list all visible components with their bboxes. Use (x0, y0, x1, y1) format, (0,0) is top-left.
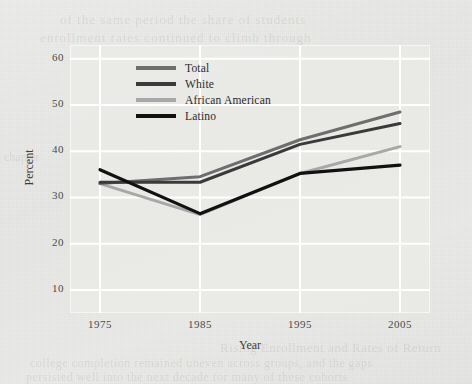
y-tick-label: 40 (34, 143, 64, 155)
x-axis-tick-labels: 1975198519952005 (70, 318, 430, 336)
legend-item[interactable]: Latino (136, 108, 286, 124)
legend-item-label: African American (185, 94, 271, 106)
x-tick-label: 1985 (188, 318, 212, 330)
x-axis-title: Year (70, 338, 430, 353)
ghost-text-line: enrollment rates continued to climb thro… (40, 30, 312, 46)
legend-swatch-icon (136, 82, 176, 86)
legend-item-label: Total (185, 62, 209, 74)
legend-item[interactable]: Total (136, 60, 286, 76)
y-axis-title: Percent (22, 133, 37, 203)
series-line (100, 124, 400, 183)
legend-swatch-icon (136, 98, 176, 102)
ghost-text-line: college completion remained uneven acros… (30, 356, 373, 371)
ghost-text-line: of the same period the share of students (60, 12, 306, 28)
page-root: of the same period the share of students… (0, 0, 472, 384)
series-line (100, 165, 400, 214)
legend-item[interactable]: White (136, 76, 286, 92)
x-tick-label: 2005 (388, 318, 412, 330)
y-tick-label: 60 (34, 51, 64, 63)
x-tick-label: 1995 (288, 318, 312, 330)
ghost-text-line: persisted well into the next decade for … (26, 370, 348, 384)
legend-item[interactable]: African American (136, 92, 286, 108)
y-tick-label: 20 (34, 236, 64, 248)
legend-swatch-icon (136, 66, 176, 70)
legend-item-label: Latino (185, 110, 216, 122)
x-tick-label: 1975 (88, 318, 112, 330)
legend-item-label: White (185, 78, 214, 90)
y-tick-label: 10 (34, 282, 64, 294)
chart-legend: TotalWhiteAfrican AmericanLatino (136, 60, 286, 124)
y-tick-label: 50 (34, 97, 64, 109)
y-tick-label: 30 (34, 189, 64, 201)
legend-swatch-icon (136, 114, 176, 118)
